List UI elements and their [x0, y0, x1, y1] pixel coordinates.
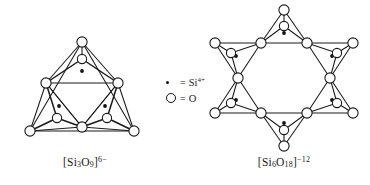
caption-si6o18-si: Si	[262, 156, 272, 168]
filled-dot-icon	[166, 81, 179, 84]
caption-si6o18-o-sub: 18	[285, 160, 293, 169]
silicate-structures-figure: = Si4+ = O [Si3O9]6− [Si6O18]−12	[0, 0, 370, 185]
caption-si6o18: [Si6O18]−12	[198, 155, 370, 169]
legend: = Si4+ = O	[166, 74, 228, 106]
caption-si3o9-o: O	[81, 156, 90, 168]
legend-row-silicon: = Si4+	[166, 74, 228, 90]
caption-si3o9-charge: 6−	[98, 155, 107, 164]
legend-equals-oxygen: =	[179, 93, 189, 104]
oxygen-atoms	[210, 5, 358, 151]
silicon-atoms	[57, 69, 107, 108]
legend-label-silicon-charge: 4+	[197, 76, 204, 84]
open-circle-icon	[166, 93, 179, 103]
caption-si3o9-si: Si	[67, 156, 77, 168]
legend-equals-silicon: =	[179, 77, 189, 88]
structure-si3o9	[0, 0, 170, 150]
legend-label-oxygen: O	[189, 93, 197, 104]
caption-si6o18-charge: −12	[297, 155, 310, 164]
caption-si6o18-o: O	[276, 156, 285, 168]
legend-label-silicon: Si4+	[189, 76, 205, 88]
silicon-atoms	[234, 31, 334, 125]
legend-row-oxygen: = O	[166, 90, 228, 106]
caption-si3o9: [Si3O9]6−	[0, 155, 170, 169]
